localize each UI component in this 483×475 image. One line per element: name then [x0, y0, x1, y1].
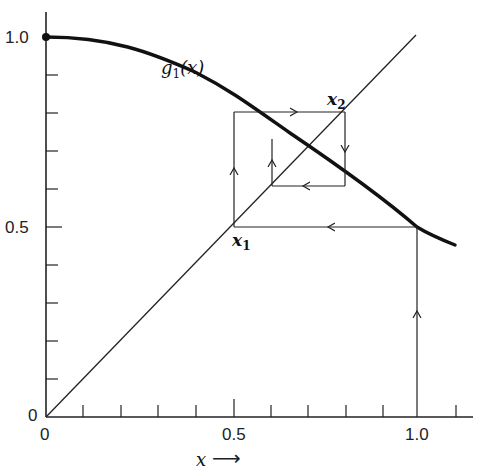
x-axis-arrow: ⟶	[212, 446, 241, 470]
y-tick-label-1.0: 1.0	[5, 28, 29, 47]
y-tick-label-0: 0	[28, 406, 37, 425]
y-tick-label-0.5: 0.5	[5, 218, 29, 237]
axes	[46, 12, 473, 417]
x-tick-label-1.0: 1.0	[405, 425, 429, 444]
x-tick-label-0.5: 0.5	[222, 425, 246, 444]
x2-label: x2	[326, 89, 346, 112]
x-ticks	[83, 399, 456, 417]
g1-curve	[46, 37, 455, 245]
start-point-dot	[42, 33, 50, 41]
curve-label: g1(x)	[161, 57, 204, 81]
y-ticks	[46, 75, 62, 379]
x-axis-label: x	[196, 449, 206, 470]
x-tick-label-0: 0	[40, 425, 49, 444]
x1-label: x1	[231, 230, 251, 253]
fixed-point-iteration-chart: 1.0 0.5 0 0 0.5 1.0 x ⟶ g1(x) x1 x2	[0, 0, 483, 475]
